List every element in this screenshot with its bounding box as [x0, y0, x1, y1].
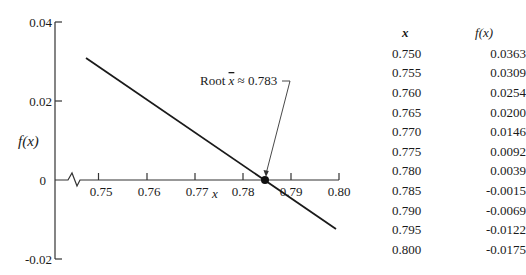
cell-x: 0.755	[392, 64, 465, 84]
cell-x: 0.795	[392, 220, 465, 240]
cell-fx: -0.0015	[465, 181, 526, 201]
y-tick-label: 0	[40, 173, 47, 188]
table-header-row: x f(x)	[392, 22, 526, 44]
cell-x: 0.775	[392, 142, 465, 162]
y-tick-label: 0.02	[29, 94, 52, 109]
root-point	[261, 176, 269, 184]
arrowhead-icon	[264, 170, 269, 177]
y-tick-label: 0.04	[29, 15, 52, 30]
table-row: 0.7750.0092	[392, 142, 526, 162]
root-annotation: Root x ≈ 0.783	[200, 73, 277, 88]
x-tick-label: 0.79	[280, 184, 303, 199]
values-table: x f(x) 0.7500.0363 0.7550.0309 0.7600.02…	[392, 22, 526, 260]
column-header-fx: f(x)	[465, 22, 526, 44]
cell-x: 0.765	[392, 103, 465, 123]
x-tick-label: 0.77	[186, 184, 209, 199]
table-row: 0.7650.0200	[392, 103, 526, 123]
x-tick-label: 0.75	[90, 184, 113, 199]
x-tick-label: 0.78	[232, 184, 255, 199]
root-annotation-prefix: Root	[200, 73, 229, 88]
y-tick-label: -0.02	[25, 252, 52, 267]
cell-fx: 0.0254	[465, 83, 526, 103]
cell-x: 0.750	[392, 44, 465, 64]
table-row: 0.795-0.0122	[392, 220, 526, 240]
cell-x: 0.780	[392, 162, 465, 182]
x-tick-label: 0.76	[138, 184, 161, 199]
table-row: 0.7600.0254	[392, 83, 526, 103]
table-row: 0.7800.0039	[392, 162, 526, 182]
cell-x: 0.785	[392, 181, 465, 201]
y-axis-label: f(x)	[18, 133, 39, 150]
cell-fx: 0.0363	[465, 44, 526, 64]
table-row: 0.800-0.0175	[392, 240, 526, 260]
cell-fx: 0.0146	[465, 122, 526, 142]
table-row: 0.7500.0363	[392, 44, 526, 64]
cell-fx: -0.0069	[465, 201, 526, 221]
cell-x: 0.800	[392, 240, 465, 260]
column-header-x: x	[392, 22, 465, 44]
cell-fx: 0.0309	[465, 64, 526, 84]
cell-x: 0.790	[392, 201, 465, 221]
cell-fx: 0.0039	[465, 162, 526, 182]
root-annotation-value: ≈ 0.783	[234, 73, 277, 88]
column-header-fx-label: f(x)	[475, 25, 493, 40]
cell-fx: -0.0122	[465, 220, 526, 240]
cell-fx: 0.0092	[465, 142, 526, 162]
table-row: 0.790-0.0069	[392, 201, 526, 221]
cell-fx: 0.0200	[465, 103, 526, 123]
table-row: 0.7700.0146	[392, 122, 526, 142]
function-plot: 0.04 0.02 0 -0.02 f(x) 0.75 0.76 0.77 0.…	[0, 0, 380, 275]
table-row: 0.785-0.0015	[392, 181, 526, 201]
annotation-leader	[266, 81, 290, 174]
table-row: 0.7550.0309	[392, 64, 526, 84]
x-axis-label: x	[211, 186, 218, 201]
cell-x: 0.760	[392, 83, 465, 103]
cell-fx: -0.0175	[465, 240, 526, 260]
cell-x: 0.770	[392, 122, 465, 142]
x-tick-label: 0.80	[328, 184, 351, 199]
